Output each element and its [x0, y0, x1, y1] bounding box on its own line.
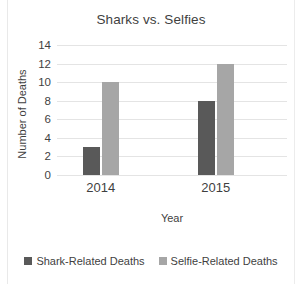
bar-chart: Sharks vs. Selfies Number of Deaths 0246… — [0, 0, 302, 284]
chart-title: Sharks vs. Selfies — [0, 12, 302, 27]
y-tick-label: 0 — [21, 169, 51, 181]
bar — [217, 64, 234, 175]
bar — [83, 147, 100, 175]
y-tick-label: 6 — [21, 113, 51, 125]
y-tick-label: 8 — [21, 95, 51, 107]
x-tick-label: 2015 — [186, 180, 246, 195]
page-border-right — [294, 0, 295, 284]
y-tick-label: 12 — [21, 58, 51, 70]
bar — [102, 82, 119, 175]
x-tick-label: 2014 — [71, 180, 131, 195]
y-axis-tick-labels: 02468101214 — [19, 45, 51, 175]
gridline — [57, 175, 287, 176]
y-tick-label: 14 — [21, 39, 51, 51]
plot-area — [57, 45, 287, 175]
legend-label: Shark-Related Deaths — [36, 255, 144, 267]
legend-label: Selfie-Related Deaths — [171, 255, 278, 267]
legend-swatch-icon — [24, 257, 32, 265]
x-axis-tick-labels: 20142015 — [57, 180, 287, 200]
legend-swatch-icon — [159, 257, 167, 265]
bar — [198, 101, 215, 175]
y-tick-label: 10 — [21, 76, 51, 88]
x-axis-title: Year — [57, 212, 287, 224]
page-border-left — [7, 0, 8, 284]
y-tick-label: 4 — [21, 132, 51, 144]
bars-group — [57, 45, 287, 175]
y-tick-label: 2 — [21, 150, 51, 162]
chart-legend: Shark-Related DeathsSelfie-Related Death… — [0, 255, 302, 267]
legend-item[interactable]: Shark-Related Deaths — [24, 255, 144, 267]
legend-item[interactable]: Selfie-Related Deaths — [159, 255, 278, 267]
